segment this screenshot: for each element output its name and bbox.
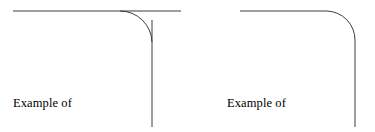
trimming-caption: Example of trimming [227, 66, 286, 132]
trimming-comparison-diagram: Example of not trimming Example of trimm… [0, 0, 375, 132]
not-trimming-corner-arc [120, 11, 152, 42]
not-trimming-caption: Example of not trimming [13, 66, 80, 132]
not-trimming-caption-line-1: Example of [13, 96, 80, 111]
trimming-corner-arc [327, 11, 355, 40]
trimming-caption-line-1: Example of [227, 96, 286, 111]
